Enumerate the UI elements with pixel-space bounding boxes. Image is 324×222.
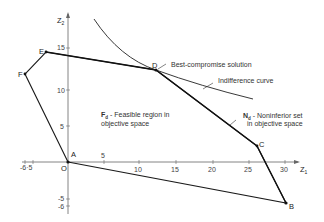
- feasible-region-boundary: [25, 52, 286, 203]
- feasible-region: [25, 52, 286, 203]
- x-tick-label-neg: -6·5: [20, 164, 33, 171]
- y-tick-label-15: 15: [57, 44, 65, 51]
- indifference-label: Indifference curve: [218, 77, 274, 84]
- point-b-marker: [284, 201, 287, 204]
- y-tick-label-neg5: -5: [58, 195, 64, 202]
- feasible-region-label: Fd - Feasible region in: [101, 111, 170, 120]
- x-tick-label-25: 25: [244, 166, 252, 173]
- feasible-region-label-line2: objective space: [101, 120, 149, 128]
- point-c-label: C: [259, 140, 265, 149]
- point-e-marker: [45, 51, 48, 54]
- x-tick-label-5: 5: [101, 152, 105, 159]
- point-a-label: A: [71, 150, 76, 159]
- indifference-curve: [94, 19, 253, 99]
- origin-label: O: [61, 164, 67, 173]
- point-e-label: E: [39, 47, 44, 56]
- point-f-label: F: [18, 70, 23, 79]
- y-axis-arrow-icon: [66, 12, 70, 18]
- point-f-marker: [24, 73, 27, 76]
- noninferior-leader: [230, 120, 236, 125]
- point-a-marker: [66, 160, 69, 163]
- x-tick-label-20: 20: [208, 166, 216, 173]
- y-axis-label: Z2: [57, 16, 65, 26]
- point-d-label: D: [152, 61, 158, 70]
- noninferior-label-line2: in objective space: [247, 120, 303, 128]
- x-tick-label-10: 10: [134, 166, 142, 173]
- point-c-marker: [256, 145, 259, 148]
- y-tick-label-10: 10: [57, 87, 65, 94]
- x-tick-label-30: 30: [280, 166, 288, 173]
- x-tick-label-15: 15: [171, 166, 179, 173]
- best-compromise-label: Best-compromise solution: [171, 61, 252, 69]
- feasible-region-diagram: 5 10 15 20 25 30 -6·5 15 10 5 -5 -6 O Z2…: [0, 0, 324, 222]
- point-b-label: B: [289, 202, 294, 211]
- x-axis-label: Z1: [300, 165, 308, 175]
- best-compromise-leader: [158, 64, 166, 69]
- y-tick-label-5: 5: [60, 123, 64, 130]
- x-axis-arrow-icon: [294, 160, 300, 164]
- y-tick-label-neg6: -6: [58, 203, 64, 210]
- annotations: Best-compromise solution Indifference cu…: [101, 61, 303, 128]
